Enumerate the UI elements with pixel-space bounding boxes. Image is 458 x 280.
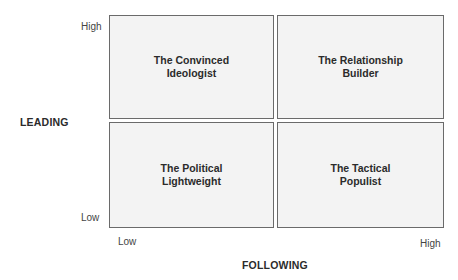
quadrant-label: The Convinced Ideologist — [154, 54, 229, 80]
x-axis-high-label: High — [420, 238, 441, 249]
quadrant-label: The Tactical Populist — [331, 162, 391, 188]
y-axis-low-label: Low — [81, 212, 99, 223]
x-axis-title: FOLLOWING — [242, 259, 308, 271]
y-axis-high-label: High — [81, 21, 102, 32]
quadrant-bottom-left: The Political Lightweight — [109, 122, 274, 228]
quadrant-top-right: The Relationship Builder — [277, 15, 444, 119]
quadrant-top-left: The Convinced Ideologist — [109, 15, 274, 119]
quadrant-label: The Relationship Builder — [318, 54, 403, 80]
x-axis-low-label: Low — [118, 236, 136, 247]
y-axis-title: LEADING — [20, 116, 69, 128]
quadrant-bottom-right: The Tactical Populist — [277, 122, 444, 228]
quadrant-label: The Political Lightweight — [161, 162, 223, 188]
